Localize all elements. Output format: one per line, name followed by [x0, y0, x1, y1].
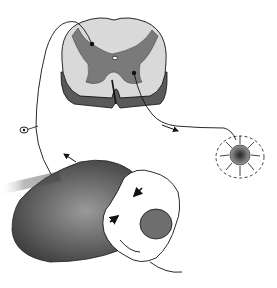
spinal-cord-cross-section — [61, 18, 167, 108]
anatomical-figure — [0, 0, 277, 288]
illustration-canvas — [0, 0, 277, 288]
afferent-arrow-icon — [64, 154, 76, 162]
lower-anatomy-region — [0, 160, 182, 272]
central-canal — [113, 56, 118, 60]
target-cell-cluster — [216, 136, 264, 178]
